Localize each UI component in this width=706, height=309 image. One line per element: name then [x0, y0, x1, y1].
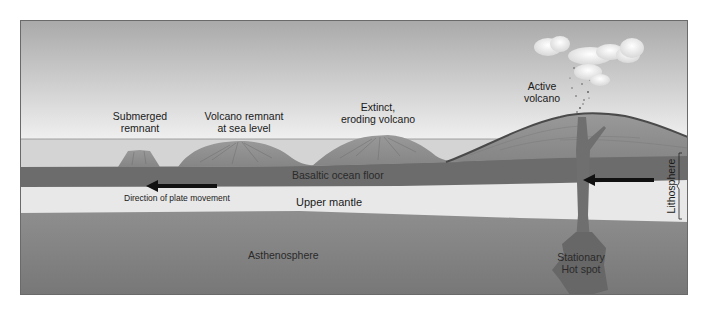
label-basaltic-ocean-floor: Basaltic ocean floor — [292, 170, 422, 182]
label-volcano-remnant-sea-level: Volcano remnant at sea level — [196, 111, 292, 134]
label-submerged-remnant: Submerged remnant — [108, 111, 172, 134]
label-upper-mantle: Upper mantle — [296, 196, 386, 208]
hot-spot-diagram: Submerged remnant Volcano remnant at sea… — [0, 0, 706, 309]
label-lithosphere: Lithosphere — [665, 151, 677, 221]
label-active-volcano: Active volcano — [514, 81, 570, 104]
label-direction-plate-movement: Direction of plate movement — [124, 194, 254, 203]
label-asthenosphere: Asthenosphere — [248, 250, 338, 262]
label-stationary-hot-spot: Stationary Hot spot — [546, 252, 616, 275]
label-extinct-eroding-volcano: Extinct, eroding volcano — [330, 102, 426, 125]
